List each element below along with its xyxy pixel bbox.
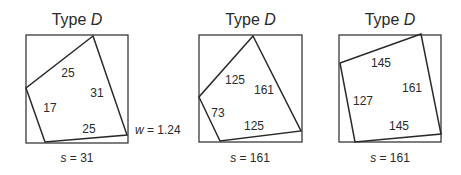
title-text: Type	[225, 11, 264, 28]
type-d-square-diagrams: Type D25311725s = 31Type D12516173125s =…	[0, 0, 461, 175]
panel-2: Type D12516173125s = 161	[199, 11, 302, 165]
title-variable: D	[264, 11, 276, 28]
panel-title: Type D	[225, 11, 276, 28]
side-label: 25	[61, 66, 75, 80]
panel-title: Type D	[365, 11, 416, 28]
outer-square	[26, 35, 128, 143]
side-label: 161	[402, 81, 422, 95]
title-variable: D	[404, 11, 416, 28]
title-text: Type	[52, 11, 91, 28]
caption-value: = 161	[236, 151, 270, 165]
panel-3: Type D145161127145s = 161	[339, 11, 441, 165]
title-text: Type	[365, 11, 404, 28]
caption-value: = 31	[66, 151, 93, 165]
side-label: 17	[43, 101, 57, 115]
side-caption: s = 31	[60, 151, 93, 165]
title-variable: D	[91, 11, 103, 28]
panel-title: Type D	[52, 11, 103, 28]
panel-1: Type D25311725s = 31	[26, 11, 128, 165]
width-annotation: w = 1.24	[135, 123, 181, 137]
side-label: 125	[244, 119, 264, 133]
side-caption: s = 161	[370, 151, 410, 165]
side-label: 25	[82, 122, 96, 136]
side-label: 127	[353, 94, 373, 108]
caption-value: = 161	[376, 151, 410, 165]
side-label: 145	[389, 119, 409, 133]
side-label: 125	[225, 73, 245, 87]
annotation-value: = 1.24	[144, 123, 181, 137]
side-label: 161	[254, 83, 274, 97]
side-label: 145	[371, 56, 391, 70]
side-label: 73	[211, 106, 225, 120]
inner-quadrilateral	[26, 36, 127, 142]
side-caption: s = 161	[230, 151, 270, 165]
side-label: 31	[90, 86, 104, 100]
